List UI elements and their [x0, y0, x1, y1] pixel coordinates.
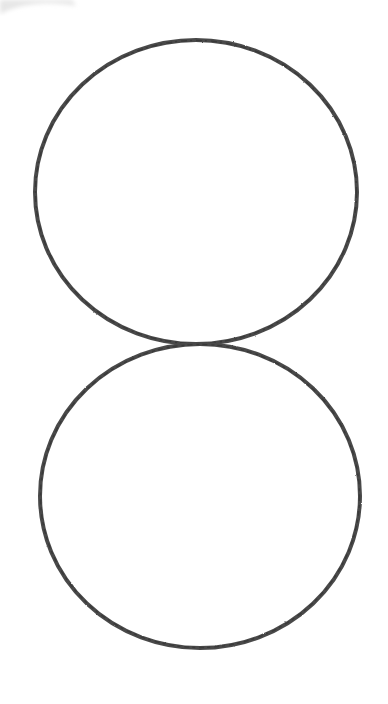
top-circle — [35, 40, 357, 344]
figure-eight-sketch — [0, 0, 388, 704]
bottom-circle-shading — [41, 345, 360, 648]
corner-smudge — [0, 0, 76, 14]
top-circle-shading — [36, 41, 357, 344]
drawing-canvas: Pencil sketch of two circles stacked ver… — [0, 0, 388, 704]
bottom-circle — [40, 344, 360, 648]
